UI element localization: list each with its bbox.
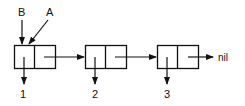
pointer-label-a: A [46, 6, 54, 18]
linked-list-diagram: B A 1 2 3 nil [0, 0, 245, 106]
car-value-3: 3 [164, 88, 170, 100]
cell-2 [86, 46, 157, 85]
car-value-2: 2 [92, 88, 98, 100]
nil-label: nil [218, 52, 228, 63]
cell-1 [15, 46, 85, 85]
pointer-label-b: B [18, 6, 25, 18]
pointer-a-arrow [29, 20, 48, 44]
cell-3 [158, 46, 214, 85]
car-value-1: 1 [20, 88, 26, 100]
